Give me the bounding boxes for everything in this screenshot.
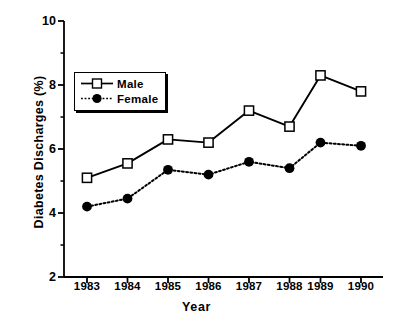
- data-point-male-1987: [244, 106, 253, 115]
- data-point-female-1983: [82, 202, 92, 212]
- plot-area: [0, 0, 393, 324]
- x-tick-label: 1983: [65, 281, 109, 293]
- legend-label-male: Male: [114, 78, 144, 90]
- data-point-female-1985: [163, 165, 173, 175]
- data-point-female-1990: [356, 141, 366, 151]
- x-tick-label: 1987: [227, 281, 271, 293]
- x-tick-label: 1985: [146, 281, 190, 293]
- x-axis-tick-labels: 19831984198519861987198819891990: [0, 281, 393, 301]
- axes: [58, 21, 383, 283]
- data-point-male-1988: [285, 122, 294, 131]
- diabetes-discharges-line-chart: Diabetes Discharges (%) 246810 198319841…: [0, 0, 393, 324]
- chart-legend: Male Female: [74, 72, 166, 111]
- data-point-male-1989: [316, 71, 325, 80]
- data-point-male-1984: [123, 159, 132, 168]
- data-point-female-1988: [285, 163, 295, 173]
- legend-label-female: Female: [114, 93, 158, 105]
- data-point-female-1986: [204, 170, 214, 180]
- data-point-male-1986: [204, 138, 213, 147]
- x-tick-label: 1986: [187, 281, 231, 293]
- data-point-male-1983: [82, 173, 91, 182]
- legend-item-female: Female: [80, 91, 158, 106]
- legend-key-open-square-icon: [80, 77, 114, 90]
- data-point-female-1987: [244, 157, 254, 167]
- x-axis-title: Year: [0, 300, 393, 314]
- legend-key-filled-circle-icon: [80, 92, 114, 105]
- x-tick-label: 1990: [339, 281, 383, 293]
- legend-item-male: Male: [80, 76, 158, 91]
- x-tick-label: 1989: [299, 281, 343, 293]
- data-point-female-1984: [123, 194, 133, 204]
- data-point-female-1989: [316, 138, 326, 148]
- x-tick-label: 1984: [106, 281, 150, 293]
- data-point-male-1990: [356, 87, 365, 96]
- data-point-male-1985: [163, 135, 172, 144]
